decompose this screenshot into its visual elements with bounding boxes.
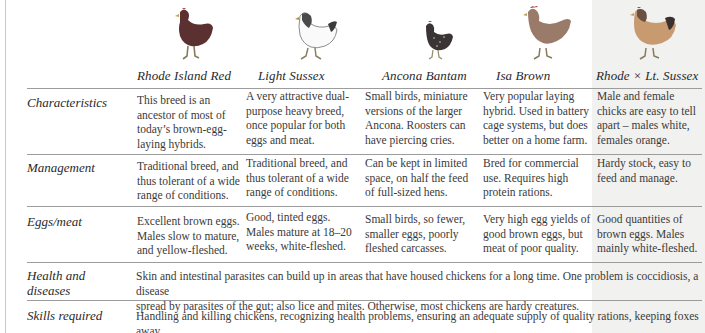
chicken-small-black-speckled-illustration <box>382 4 492 62</box>
row-label-management: Management <box>27 160 95 175</box>
table-cell: Bred for commercial use. Requires high p… <box>483 156 599 200</box>
row-divider <box>27 206 702 207</box>
table-cell: Can be kept in limited space, on half th… <box>365 156 487 200</box>
row-label-eggs-meat: Eggs/meat <box>27 214 82 229</box>
table-cell: Traditional breed, and thus tolerant of … <box>137 159 255 203</box>
chicken-brown-illustration <box>496 4 596 62</box>
breed-name: Rhode × Lt. Sussex <box>596 68 705 84</box>
breed-column-light-sussex: Light Sussex <box>258 0 368 88</box>
table-cell: Hardy stock, easy to feed and manage. <box>597 156 705 185</box>
table-cell: Good quantities of brown eggs. Males mai… <box>597 212 705 256</box>
table-cell: Very popular laying hybrid. Used in batt… <box>483 89 599 148</box>
table-cell: Good, tinted eggs. Males mature at 18–20… <box>246 210 366 254</box>
breed-column-ancona-bantam: Ancona Bantam <box>382 0 492 88</box>
row-label-skills-required: Skills required <box>27 308 102 323</box>
chicken-breeds-comparison-table: Rhode Island Red Light Sussex <box>0 0 705 333</box>
breed-name: Light Sussex <box>258 68 368 84</box>
table-cell: Very high egg yields of good brown eggs,… <box>483 212 599 256</box>
breed-name: Isa Brown <box>496 68 596 84</box>
breed-column-isa-brown: Isa Brown <box>496 0 596 88</box>
chicken-white-black-neck-illustration <box>258 4 368 62</box>
row-divider <box>27 262 702 263</box>
row-label-health-diseases: Health and diseases <box>27 268 85 298</box>
health-diseases-text: Skin and intestinal parasites can build … <box>136 269 704 314</box>
breed-column-rhode-x-lt-sussex: Rhode × Lt. Sussex <box>596 0 705 88</box>
table-cell: This breed is an ancestor of most of tod… <box>137 93 255 152</box>
chicken-orange-illustration <box>596 4 705 62</box>
table-cell: Excellent brown eggs. Males slow to matu… <box>137 214 255 258</box>
breed-name: Rhode Island Red <box>137 68 247 84</box>
table-cell: Male and female chicks are easy to tell … <box>597 89 705 148</box>
table-cell: Small birds, miniature versions of the l… <box>365 89 487 148</box>
row-label-characteristics: Characteristics <box>27 95 107 110</box>
chicken-dark-red-illustration <box>137 4 247 62</box>
row-divider <box>27 154 702 155</box>
table-cell: Small birds, so fewer, smaller eggs, poo… <box>365 212 487 256</box>
table-cell: A very attractive dual- purpose heavy br… <box>246 89 366 148</box>
breed-header-row: Rhode Island Red Light Sussex <box>0 0 705 88</box>
table-cell: Traditional breed, and thus tolerant of … <box>246 156 366 200</box>
skills-required-text: Handling and killing chickens, recognizi… <box>136 309 704 333</box>
breed-column-rhode-island-red: Rhode Island Red <box>137 0 247 88</box>
breed-name: Ancona Bantam <box>382 68 492 84</box>
